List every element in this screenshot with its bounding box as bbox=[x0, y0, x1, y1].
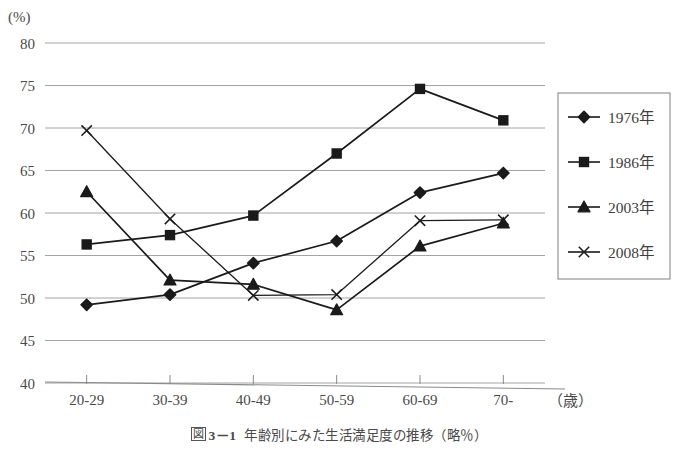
data-point bbox=[498, 167, 509, 178]
data-point bbox=[332, 149, 341, 158]
x-tick-label: 20-29 bbox=[69, 392, 104, 408]
x-tick-label: 70- bbox=[493, 392, 513, 408]
data-point bbox=[414, 187, 425, 198]
legend-label: 1986年 bbox=[608, 154, 655, 171]
caption-figure-label: 図 bbox=[191, 427, 207, 441]
legend-marker-square bbox=[579, 157, 588, 166]
legend-label: 2003年 bbox=[608, 199, 655, 216]
y-tick-label: 55 bbox=[20, 248, 35, 264]
x-tick-label: 60-69 bbox=[403, 392, 438, 408]
data-point bbox=[82, 240, 91, 249]
series-line bbox=[87, 192, 504, 310]
data-point bbox=[248, 258, 259, 269]
line-chart: (%)40455055606570758020-2930-3940-4950-5… bbox=[0, 0, 678, 451]
chart-legend: 1976年1986年2003年2008年 bbox=[558, 93, 670, 279]
x-tick-label: 50-59 bbox=[319, 392, 354, 408]
y-tick-label: 45 bbox=[20, 333, 35, 349]
caption-figure-index: 3－1 bbox=[208, 428, 236, 443]
series-1986年 bbox=[82, 84, 508, 249]
data-point bbox=[499, 116, 508, 125]
legend-label: 2008年 bbox=[608, 244, 655, 261]
figure-caption: 図3－1 年齢別にみた生活満足度の推移（略％） bbox=[0, 424, 678, 444]
data-point bbox=[165, 231, 174, 240]
x-axis-unit-label: （歳） bbox=[548, 393, 593, 409]
figure-container: (%)40455055606570758020-2930-3940-4950-5… bbox=[0, 0, 678, 451]
y-tick-label: 75 bbox=[20, 78, 35, 94]
data-point bbox=[331, 235, 342, 246]
data-point bbox=[164, 289, 175, 300]
data-point bbox=[81, 299, 92, 310]
caption-text: 年齢別にみた生活満足度の推移（略％） bbox=[244, 428, 487, 443]
data-point bbox=[81, 125, 91, 135]
y-tick-label: 40 bbox=[20, 376, 35, 392]
y-tick-label: 70 bbox=[20, 121, 35, 137]
data-point bbox=[165, 214, 175, 224]
y-tick-label: 50 bbox=[20, 291, 35, 307]
data-point bbox=[81, 186, 93, 197]
series-line bbox=[87, 89, 504, 245]
y-axis-unit-label: (%) bbox=[8, 9, 31, 26]
x-tick-label: 40-49 bbox=[236, 392, 271, 408]
data-point bbox=[415, 84, 424, 93]
data-point bbox=[249, 211, 258, 220]
legend-label: 1976年 bbox=[608, 109, 655, 126]
x-tick-label: 30-39 bbox=[153, 392, 188, 408]
y-tick-label: 80 bbox=[20, 36, 35, 52]
y-tick-label: 60 bbox=[20, 206, 35, 222]
series-line bbox=[87, 173, 504, 305]
y-tick-label: 65 bbox=[20, 163, 35, 179]
